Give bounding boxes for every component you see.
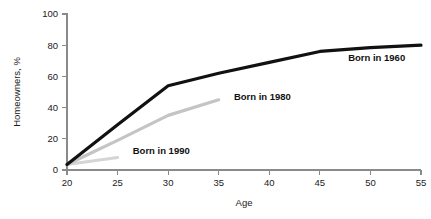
x-tick-label: 40 [264,177,275,188]
x-tick-label: 45 [315,177,326,188]
y-tick-label: 80 [47,40,58,51]
x-axis-title: Age [236,197,253,208]
x-tick-label: 55 [416,177,427,188]
x-tick-label: 50 [365,177,376,188]
chart-container: 020406080100 2025303540455055 Born in 19… [0,0,431,219]
series-label-born-in-1990: Born in 1990 [133,145,190,156]
x-tick-label: 35 [213,177,224,188]
x-axis-ticks: 2025303540455055 [62,170,427,188]
series-label-group: Born in 1960Born in 1980Born in 1990 [133,52,405,157]
series-label-born-in-1980: Born in 1980 [234,91,291,102]
y-axis-title: Homeowners, % [11,57,22,127]
line-chart: 020406080100 2025303540455055 Born in 19… [0,0,431,219]
y-tick-label: 60 [47,71,58,82]
x-tick-label: 20 [62,177,73,188]
x-tick-label: 30 [163,177,174,188]
series-label-born-in-1960: Born in 1960 [348,52,405,63]
x-tick-label: 25 [112,177,123,188]
series-line-born-in-1960 [67,45,421,164]
y-axis-ticks: 020406080100 [42,8,67,175]
data-series-group [67,45,421,164]
y-tick-label: 40 [47,102,58,113]
y-tick-label: 20 [47,133,58,144]
y-tick-label: 0 [53,164,58,175]
y-tick-label: 100 [42,8,58,19]
